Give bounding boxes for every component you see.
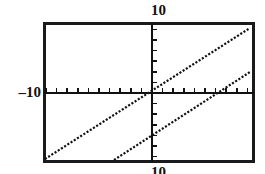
series-line: [114, 72, 250, 160]
graph-container: 10 –10 10: [0, 0, 265, 174]
plot-area: [0, 0, 265, 174]
